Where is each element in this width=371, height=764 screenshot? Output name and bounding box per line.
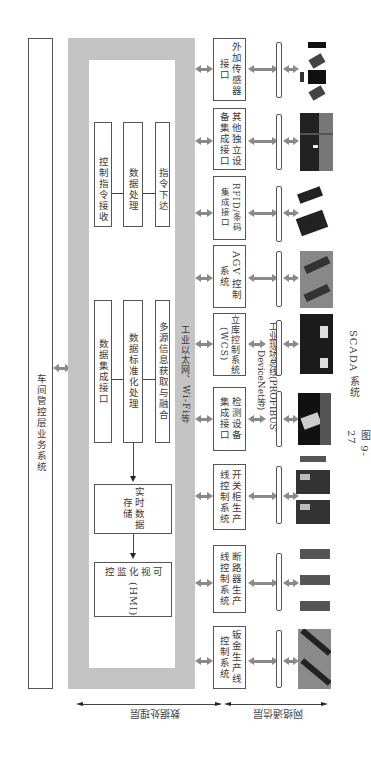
subsystem-box-inspection: 检测设备集成接口 <box>213 387 246 451</box>
bus-bar <box>276 391 282 447</box>
hmi-box: 可视化监控 (HMI) <box>94 562 172 617</box>
link-arrow <box>288 212 294 215</box>
figure-number: 图 9-27 <box>346 400 371 470</box>
subsystem-box-agv: AGV 控制系统 <box>213 245 246 308</box>
data-processing-box: 数据处理 <box>123 122 143 227</box>
bus-bar <box>276 251 282 307</box>
link-arrow <box>253 140 273 143</box>
arrow-down-icon <box>130 553 136 559</box>
connector <box>143 379 155 380</box>
breaker-line-image <box>298 541 332 617</box>
bus-bar <box>276 114 282 170</box>
subsystem-box-wcs: 立库控制系统 (WCS) <box>213 313 246 376</box>
data-integration-interface-box: 数据集成接口 <box>94 300 112 443</box>
link-arrow <box>288 495 294 498</box>
sheet-metal-line-image <box>298 629 331 689</box>
bus-bar <box>276 42 282 98</box>
inspection-device-image <box>298 393 331 445</box>
link-arrow <box>253 660 273 663</box>
connector <box>112 379 123 380</box>
command-dispatch-box: 指令下达 <box>155 122 170 227</box>
link-arrow <box>200 495 208 498</box>
link-arrow <box>200 418 208 421</box>
link-arrow <box>200 212 208 215</box>
bus-bar <box>276 186 282 242</box>
flow-line <box>133 534 134 554</box>
warehouse-image <box>300 314 333 374</box>
data-processing-layer-span <box>80 704 220 705</box>
link-arrow <box>288 660 294 663</box>
multi-source-fusion-box: 多源信息获取与融合 <box>155 300 170 443</box>
link-arrow <box>288 343 294 346</box>
link-arrow <box>288 277 294 280</box>
control-command-receive-box: 控制指令接收 <box>94 122 112 227</box>
workshop-business-system-label: 车间管控层业务系统 <box>35 374 47 473</box>
link-arrow <box>253 277 273 280</box>
bus-bar <box>276 320 282 376</box>
subsystem-box-sensors: 外加传感器接口 <box>213 38 246 101</box>
link-arrow <box>200 140 208 143</box>
link-arrow <box>288 140 294 143</box>
link-arrow <box>288 582 294 585</box>
link-arrow <box>200 277 208 280</box>
workshop-business-system-box: 车间管控层业务系统 <box>28 38 53 689</box>
arrow-left-icon <box>76 702 83 706</box>
switchgear-line-image <box>296 456 334 530</box>
link-arrow <box>200 343 208 346</box>
link-arrow <box>200 660 208 663</box>
link-arrow <box>253 68 273 71</box>
workshop-link-arrow <box>58 367 66 370</box>
subsystem-box-sheet-metal-line: 钣金生产线控制系统 <box>213 626 246 689</box>
bus-bar <box>276 553 282 611</box>
arrow-left-icon <box>224 702 231 706</box>
network-layer-label: 网络通信层 <box>248 708 308 722</box>
realtime-data-storage-box: 实时数据存储 <box>94 484 172 534</box>
link-arrow <box>253 212 273 215</box>
network-label: 工业以太网、Wi-Fi等 <box>176 290 195 460</box>
link-arrow <box>253 582 273 585</box>
link-arrow <box>200 68 208 71</box>
subsystem-box-switchgear-line: 开关柜生产线控制系统 <box>213 464 246 530</box>
agv-image <box>300 251 333 308</box>
data-standardization-box: 数据标准化处理 <box>123 300 143 443</box>
sensors-image <box>298 40 334 100</box>
bus-bar <box>276 630 282 688</box>
fieldbus-label: 工业现场总线(PROFIBUS、DeviceNet等) <box>260 300 274 460</box>
subsystem-box-rfid: RFID/条码集成接口 <box>213 176 246 240</box>
bus-bar <box>276 466 282 524</box>
subsystem-box-breaker-line: 断路器生产线控制系统 <box>213 545 246 613</box>
subsystem-box-other-devices: 其他独立设备集成接口 <box>213 108 246 170</box>
arrow-down-icon <box>130 476 136 482</box>
network-layer-span <box>228 704 325 705</box>
arrow-right-icon <box>215 702 222 706</box>
data-processing-layer-label: 数据处理层 <box>125 708 185 722</box>
link-arrow <box>288 68 294 71</box>
link-arrow <box>288 418 294 421</box>
control-panel-image <box>300 113 333 171</box>
link-arrow <box>253 495 273 498</box>
connector <box>112 193 123 194</box>
link-arrow <box>200 582 208 585</box>
flow-line <box>133 443 134 477</box>
rfid-scanner-image <box>296 186 332 240</box>
arrow-right-icon <box>321 702 328 706</box>
connector <box>143 193 155 194</box>
